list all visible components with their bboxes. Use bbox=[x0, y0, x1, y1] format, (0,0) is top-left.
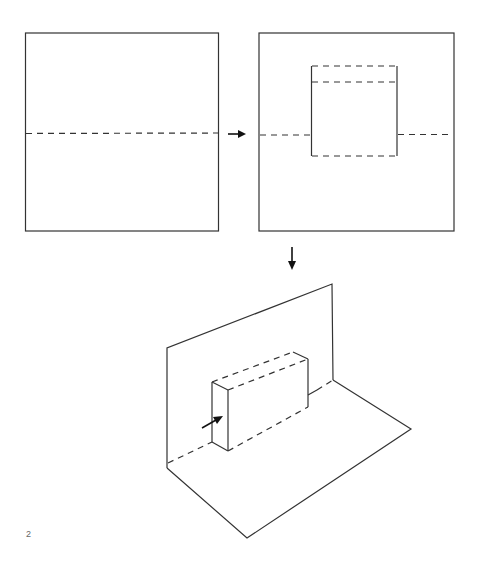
step-number-label: 2 bbox=[26, 529, 31, 539]
popup-box bbox=[212, 352, 308, 451]
card-step-b bbox=[259, 33, 454, 231]
box-top-back-fold bbox=[212, 352, 293, 382]
center-fold-line bbox=[26, 133, 218, 134]
card-fold-stub-right bbox=[308, 390, 317, 395]
box-top-right-edge bbox=[293, 352, 308, 359]
box-bottom-fold bbox=[228, 407, 308, 451]
arrow-right-icon bbox=[228, 130, 246, 138]
box-front-bottom-edge bbox=[212, 442, 228, 451]
card-outline bbox=[26, 33, 219, 231]
card-fold-line-left bbox=[168, 442, 212, 463]
box-front-top-edge bbox=[212, 382, 228, 390]
arrow-down-icon bbox=[288, 247, 296, 270]
folding-diagram bbox=[0, 0, 480, 569]
box-top-front-fold bbox=[228, 359, 308, 390]
card-fold-line-right bbox=[317, 380, 333, 390]
card-step-a bbox=[26, 33, 219, 231]
card-outline bbox=[259, 33, 454, 231]
floor-panel bbox=[167, 380, 411, 538]
popup-card-3d bbox=[167, 284, 411, 538]
